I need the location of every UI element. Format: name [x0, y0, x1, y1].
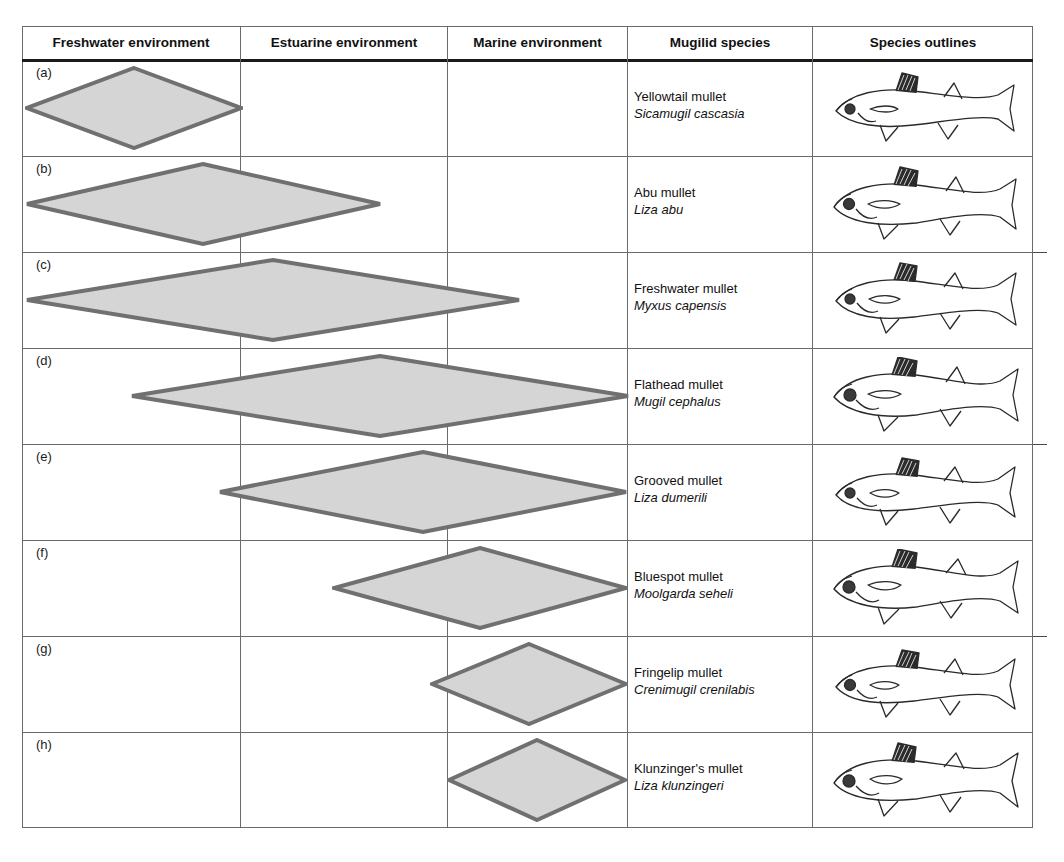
common-name: Freshwater mullet: [634, 281, 737, 296]
table-row: (a) Yellowtail mullet Sicamugil cascasia: [22, 60, 1033, 156]
table-row: (e) Grooved mullet Liza dumerili: [22, 444, 1033, 540]
table-row: (h) Klunzinger's mullet Liza klunzingeri: [22, 732, 1033, 828]
distribution-diamond: [430, 642, 628, 726]
species-name: Bluespot mullet Moolgarda seheli: [634, 568, 814, 602]
row-label: (h): [36, 737, 52, 752]
species-name: Fringelip mullet Crenimugil crenilabis: [634, 664, 814, 698]
distribution-diamond: [25, 66, 243, 150]
fish-outline-icon: [822, 165, 1028, 243]
distribution-diamond: [218, 450, 628, 534]
table-row: (c) Freshwater mullet Myxus capensis: [22, 252, 1033, 348]
edge-tick-mark: [1033, 636, 1047, 637]
common-name: Yellowtail mullet: [634, 89, 726, 104]
mugilid-distribution-figure: Freshwater environment Estuarine environ…: [22, 26, 1033, 828]
row-label: (g): [36, 641, 52, 656]
distribution-diamond: [25, 258, 521, 342]
table-row: (f) Bluespot mullet Moolgarda seheli: [22, 540, 1033, 636]
common-name: Bluespot mullet: [634, 569, 723, 584]
fish-outline-icon: [822, 741, 1028, 819]
scientific-name: Moolgarda seheli: [634, 585, 814, 602]
distribution-diamond: [25, 162, 382, 246]
scientific-name: Crenimugil crenilabis: [634, 681, 814, 698]
species-name: Klunzinger's mullet Liza klunzingeri: [634, 760, 814, 794]
column-header-species: Mugilid species: [628, 26, 812, 59]
scientific-name: Liza abu: [634, 201, 814, 218]
species-name: Yellowtail mullet Sicamugil cascasia: [634, 88, 814, 122]
species-name: Flathead mullet Mugil cephalus: [634, 376, 814, 410]
row-label: (e): [36, 449, 52, 464]
common-name: Fringelip mullet: [634, 665, 722, 680]
row-label: (d): [36, 353, 52, 368]
column-header-outlines: Species outlines: [813, 26, 1033, 59]
edge-tick-mark: [1033, 252, 1047, 253]
edge-tick-mark: [1033, 444, 1047, 445]
column-header-marine: Marine environment: [448, 26, 627, 59]
common-name: Grooved mullet: [634, 473, 722, 488]
column-header-estuarine: Estuarine environment: [241, 26, 447, 59]
fish-outline-icon: [822, 69, 1028, 147]
fish-outline-icon: [822, 261, 1028, 339]
common-name: Abu mullet: [634, 185, 695, 200]
scientific-name: Sicamugil cascasia: [634, 105, 814, 122]
fish-outline-icon: [822, 645, 1028, 723]
table-row: (g) Fringelip mullet Crenimugil crenilab…: [22, 636, 1033, 732]
common-name: Klunzinger's mullet: [634, 761, 743, 776]
table-row: (d) Flathead mullet Mugil cephalus: [22, 348, 1033, 444]
column-header-freshwater: Freshwater environment: [22, 26, 240, 59]
species-name: Grooved mullet Liza dumerili: [634, 472, 814, 506]
scientific-name: Myxus capensis: [634, 297, 814, 314]
fish-outline-icon: [822, 453, 1028, 531]
scientific-name: Liza dumerili: [634, 489, 814, 506]
row-label: (f): [36, 545, 48, 560]
fish-outline-icon: [822, 549, 1028, 627]
common-name: Flathead mullet: [634, 377, 723, 392]
distribution-diamond: [332, 546, 628, 630]
species-name: Abu mullet Liza abu: [634, 184, 814, 218]
scientific-name: Liza klunzingeri: [634, 777, 814, 794]
table-row: (b) Abu mullet Liza abu: [22, 156, 1033, 252]
distribution-diamond: [447, 738, 627, 822]
scientific-name: Mugil cephalus: [634, 393, 814, 410]
species-name: Freshwater mullet Myxus capensis: [634, 280, 814, 314]
distribution-diamond: [130, 354, 630, 438]
fish-outline-icon: [822, 357, 1028, 435]
